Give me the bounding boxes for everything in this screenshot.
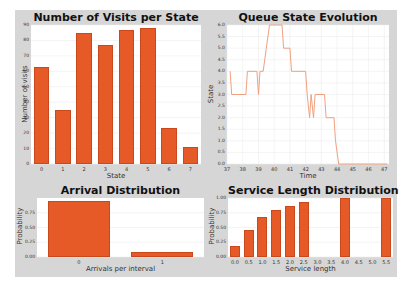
bar	[285, 206, 295, 257]
x-tick-label: 0.5	[242, 259, 256, 265]
x-tick-label: 3.0	[310, 259, 324, 265]
x-tick-label: 5.0	[365, 259, 379, 265]
x-tick-label: 3.5	[324, 259, 338, 265]
bar	[299, 202, 309, 257]
x-tick-label: 2.0	[283, 259, 297, 265]
bar	[271, 210, 281, 257]
x-tick-label: 4.0	[338, 259, 352, 265]
y-tick-label: 1.00	[212, 195, 226, 200]
x-tick-label: 1.0	[255, 259, 269, 265]
bar	[340, 198, 350, 257]
x-tick-label: 2.5	[297, 259, 311, 265]
y-tick-label: 0.00	[212, 254, 226, 259]
bar	[257, 217, 267, 257]
bar	[230, 246, 240, 257]
x-tick-label: 5.5	[379, 259, 393, 265]
bar	[244, 230, 254, 257]
y-tick-label: 0.75	[212, 210, 226, 215]
x-tick-label: 4.5	[352, 259, 366, 265]
y-tick-label: 0.50	[212, 225, 226, 230]
x-tick-label: 0.0	[228, 259, 242, 265]
bar	[381, 198, 391, 257]
x-tick-label: 1.5	[269, 259, 283, 265]
y-tick-label: 0.25	[212, 239, 226, 244]
